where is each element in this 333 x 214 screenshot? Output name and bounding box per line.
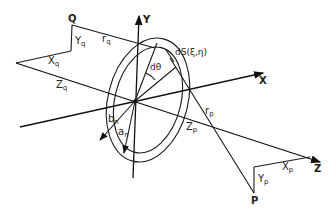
- q-point-label: Q: [68, 13, 77, 24]
- yp-label: Yp: [257, 173, 269, 186]
- diffraction-geometry-diagram: X Y Z Q P Yq Xq Zq rq Yp Xp Zp rp bn an …: [0, 0, 333, 214]
- dtheta-arc: [146, 73, 155, 80]
- inner-ellipse: [103, 40, 193, 161]
- origin-point: [133, 99, 137, 103]
- bn-label: bn: [108, 113, 119, 126]
- z-axis-label: Z: [314, 163, 321, 174]
- yq-segment: [71, 25, 72, 51]
- dtheta-label: dθ: [150, 62, 162, 72]
- xp-label: Xp: [282, 161, 294, 174]
- an-label: an: [118, 126, 129, 139]
- p-point-label: P: [251, 195, 258, 206]
- y-axis-label: Y: [142, 14, 151, 25]
- yq-label: Yq: [74, 35, 86, 48]
- ds-element-label: dS(ξ,η): [175, 47, 207, 57]
- xq-segment: [16, 51, 71, 63]
- xq-label: Xq: [48, 55, 59, 68]
- zq-label: Zq: [56, 79, 67, 92]
- an-radius: [124, 101, 135, 153]
- zp-label: Zp: [186, 121, 198, 134]
- x-axis-label: X: [259, 75, 267, 86]
